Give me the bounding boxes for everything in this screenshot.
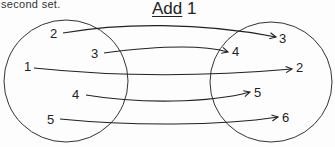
codomain-element-3: 3: [279, 31, 286, 46]
diagram-canvas: 2 3 1 4 5 3 4 2 5 6: [0, 0, 335, 147]
domain-element-4: 4: [72, 87, 79, 102]
domain-element-1: 1: [24, 59, 31, 74]
codomain-element-2: 2: [296, 60, 303, 75]
domain-element-5: 5: [47, 112, 54, 127]
domain-element-2: 2: [50, 26, 57, 41]
arrow-3-to-4: [104, 47, 228, 53]
arrow-4-to-5: [86, 92, 250, 101]
domain-element-3: 3: [91, 46, 98, 61]
mapping-diagram: second set. Add 1 2 3 1 4 5 3 4 2 5 6: [0, 0, 335, 147]
domain-set-circle: [4, 20, 128, 142]
codomain-set-circle: [210, 22, 332, 142]
codomain-element-6: 6: [282, 110, 289, 125]
arrow-1-to-2: [34, 68, 292, 75]
codomain-element-5: 5: [254, 85, 261, 100]
codomain-element-4: 4: [232, 44, 239, 59]
arrow-5-to-6: [60, 117, 278, 124]
